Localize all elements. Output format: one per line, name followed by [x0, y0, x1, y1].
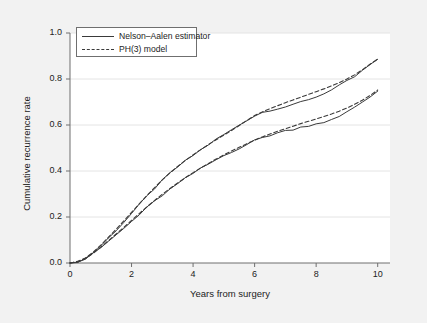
y-tick-label: 0.6 [36, 119, 62, 129]
chart-legend: Nelson–Aalen estimator PH(3) model [76, 27, 197, 57]
x-tick-label: 2 [119, 269, 145, 279]
legend-label: Nelson–Aalen estimator [119, 30, 210, 43]
x-tick-label: 4 [180, 269, 206, 279]
legend-label: PH(3) model [119, 43, 167, 56]
figure-container: Cumulative recurrence rate Years from su… [0, 0, 427, 323]
y-tick-label: 0.4 [36, 165, 62, 175]
x-tick-label: 8 [303, 269, 329, 279]
y-tick-label: 0.8 [36, 73, 62, 83]
x-tick-label: 6 [242, 269, 268, 279]
legend-line-dashed-icon [82, 49, 114, 50]
y-tick-label: 0.0 [36, 257, 62, 267]
y-tick-label: 1.0 [36, 27, 62, 37]
y-tick-label: 0.2 [36, 211, 62, 221]
legend-line-solid-icon [82, 36, 114, 37]
legend-item-ph3-model: PH(3) model [77, 43, 196, 57]
x-axis-label: Years from surgery [70, 288, 390, 299]
x-tick-label: 10 [365, 269, 391, 279]
legend-item-nelson-aalen: Nelson–Aalen estimator [77, 30, 196, 44]
y-axis-label: Cumulative recurrence rate [21, 84, 32, 224]
x-tick-label: 0 [57, 269, 83, 279]
